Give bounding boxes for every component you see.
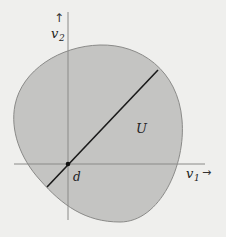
y-axis-arrow-icon: ↑ (54, 11, 64, 25)
point-d-label: d (73, 170, 81, 184)
region-u-label: U (136, 121, 148, 136)
x-axis-subscript: 1 (194, 173, 200, 183)
y-axis-subscript: 2 (58, 33, 65, 43)
diagram-canvas: d U ↑ v 2 v 1 → (0, 0, 226, 237)
y-axis-label: v (51, 26, 59, 41)
point-d (66, 162, 71, 167)
x-axis-label: v (186, 166, 194, 181)
x-axis-arrow-icon: → (202, 166, 211, 179)
